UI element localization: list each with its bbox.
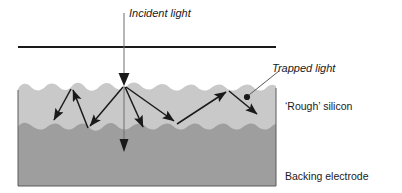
label-backing-electrode: Backing electrode (reflecting aluminium) [285, 145, 385, 193]
label-rough-silicon: ‘Rough’ silicon [285, 100, 352, 112]
label-trapped-light: Trapped light [272, 62, 335, 75]
label-backing-electrode-line1: Backing electrode [285, 170, 385, 182]
incident-beam-arrowhead [119, 73, 130, 86]
light-trapping-diagram: Incident light Trapped light ‘Rough’ sil… [0, 0, 402, 193]
backing-electrode-layer [18, 123, 276, 186]
label-incident-light: Incident light [129, 7, 191, 20]
